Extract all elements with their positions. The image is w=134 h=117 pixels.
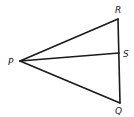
segment-rq [118,19,120,103]
label-r: R [115,5,121,15]
label-p: P [8,57,14,67]
label-q: Q [115,106,122,116]
label-s: S [123,49,129,59]
segment-pq [20,61,120,103]
triangle-diagram: R S P Q [0,0,134,117]
